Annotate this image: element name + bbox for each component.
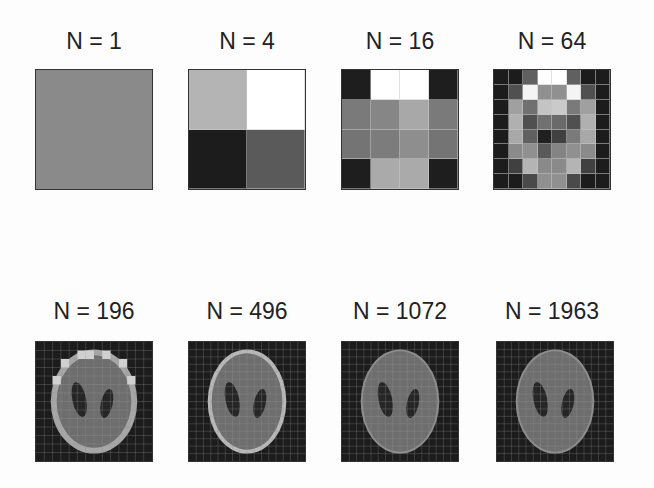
grid-cell <box>523 144 538 159</box>
grid-cell <box>538 174 553 189</box>
grid-cell <box>494 70 509 85</box>
grid-cell <box>581 144 596 159</box>
grid-cell <box>596 70 611 85</box>
panel-n196 <box>35 341 153 462</box>
grid-cell <box>567 174 582 189</box>
grid-cell <box>189 130 247 190</box>
grid-cell <box>509 159 524 174</box>
panel-label-n1: N = 1 <box>19 29 169 53</box>
grid-cell <box>552 159 567 174</box>
grid-cell <box>494 159 509 174</box>
phantom-image <box>36 342 152 461</box>
grid-cell <box>400 159 429 189</box>
grid-cell <box>429 100 458 130</box>
grid-cell <box>552 100 567 115</box>
grid-cell <box>400 130 429 160</box>
grid-cell <box>523 174 538 189</box>
grid-cell <box>538 70 553 85</box>
panel-n64 <box>493 69 611 190</box>
grid-cell <box>538 85 553 100</box>
grid-cell <box>247 70 305 130</box>
panel-n496 <box>188 341 306 462</box>
grid-cell <box>596 144 611 159</box>
grid-cell <box>581 159 596 174</box>
grid-cell <box>36 70 152 189</box>
grid-cell <box>567 70 582 85</box>
grid-cell <box>581 130 596 145</box>
panel-label-n1072: N = 1072 <box>325 299 475 323</box>
grid-cell <box>538 115 553 130</box>
grid-cell <box>509 174 524 189</box>
grid-cell <box>247 130 305 190</box>
grid-cell <box>523 85 538 100</box>
panel-label-n496: N = 496 <box>172 299 322 323</box>
grid-cell <box>342 70 371 100</box>
grid-cell <box>538 130 553 145</box>
grid-cell <box>596 85 611 100</box>
grid-cell <box>523 70 538 85</box>
grid-cell <box>581 85 596 100</box>
grid-cell <box>342 159 371 189</box>
panel-label-n16: N = 16 <box>325 29 475 53</box>
grid-cell <box>342 130 371 160</box>
grid-cell <box>552 144 567 159</box>
grid-cell <box>494 85 509 100</box>
grid-cell <box>509 85 524 100</box>
panel-n1072 <box>341 341 459 462</box>
grid-cell <box>429 159 458 189</box>
grid-cell <box>567 130 582 145</box>
cell-grid <box>342 70 458 189</box>
grid-cell <box>494 115 509 130</box>
panel-label-n4: N = 4 <box>172 29 322 53</box>
grid-cell <box>509 115 524 130</box>
panel-n16 <box>341 69 459 190</box>
grid-cell <box>371 159 400 189</box>
panel-n1 <box>35 69 153 190</box>
grid-cell <box>509 100 524 115</box>
grid-cell <box>552 130 567 145</box>
grid-cell <box>552 115 567 130</box>
grid-cell <box>523 130 538 145</box>
grid-cell <box>429 70 458 100</box>
grid-cell <box>596 100 611 115</box>
grid-cell <box>538 144 553 159</box>
grid-cell <box>596 130 611 145</box>
grid-cell <box>494 130 509 145</box>
grid-cell <box>552 85 567 100</box>
panel-label-n64: N = 64 <box>477 29 627 53</box>
grid-cell <box>523 159 538 174</box>
cell-grid <box>36 70 152 189</box>
grid-cell <box>494 100 509 115</box>
grid-cell <box>342 100 371 130</box>
grid-cell <box>581 100 596 115</box>
grid-cell <box>596 174 611 189</box>
grid-cell <box>552 70 567 85</box>
grid-cell <box>581 70 596 85</box>
grid-cell <box>581 174 596 189</box>
grid-cell <box>567 144 582 159</box>
grid-cell <box>429 130 458 160</box>
phantom-image <box>189 342 305 461</box>
grid-cell <box>494 144 509 159</box>
grid-cell <box>567 100 582 115</box>
phantom-image <box>497 342 613 461</box>
grid-cell <box>494 174 509 189</box>
grid-cell <box>523 100 538 115</box>
grid-cell <box>567 159 582 174</box>
grid-cell <box>371 70 400 100</box>
grid-cell <box>509 144 524 159</box>
panel-label-n196: N = 196 <box>19 299 169 323</box>
panel-n4 <box>188 69 306 190</box>
grid-cell <box>538 100 553 115</box>
grid-cell <box>400 100 429 130</box>
grid-cell <box>567 115 582 130</box>
cell-grid <box>189 70 305 189</box>
grid-cell <box>400 70 429 100</box>
grid-cell <box>552 174 567 189</box>
grid-cell <box>523 115 538 130</box>
grid-cell <box>538 159 553 174</box>
grid-cell <box>581 115 596 130</box>
grid-cell <box>509 70 524 85</box>
grid-cell <box>596 159 611 174</box>
grid-cell <box>371 130 400 160</box>
